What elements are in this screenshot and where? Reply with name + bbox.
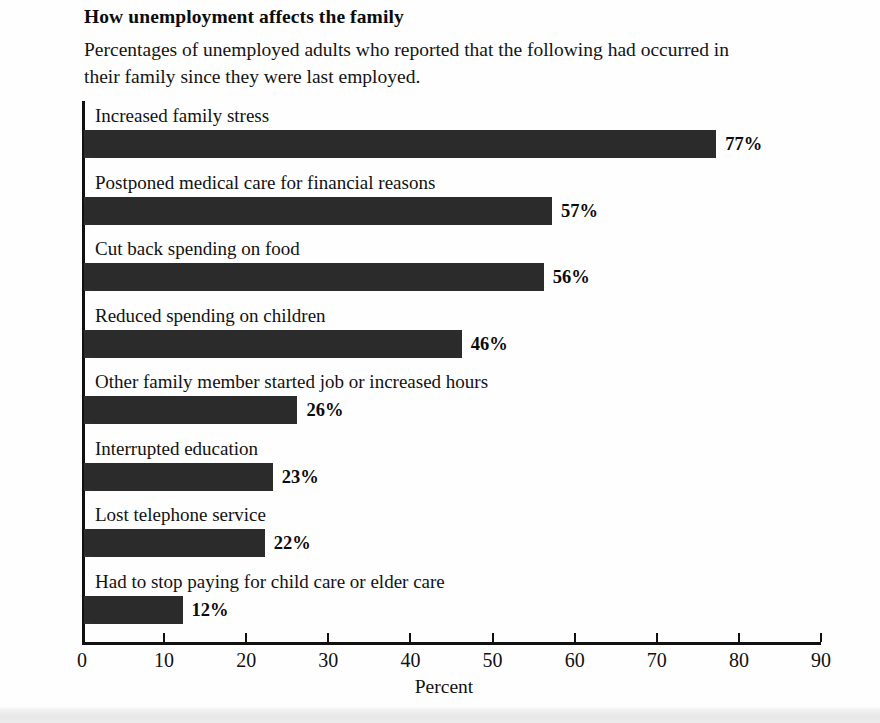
bar-group: Lost telephone service22% <box>84 505 880 557</box>
bar-rect <box>84 529 265 557</box>
bar-rect <box>84 596 183 624</box>
bar-rect <box>84 263 544 291</box>
x-axis-tick-label: 20 <box>236 650 256 670</box>
bar-rect <box>84 463 273 491</box>
x-axis-line <box>82 642 821 645</box>
chart-page: How unemployment affects the family Perc… <box>0 0 880 723</box>
x-axis-tick-label: 90 <box>811 650 831 670</box>
scanned-page-edge <box>0 706 880 723</box>
bar-group: Postponed medical care for financial rea… <box>84 173 880 225</box>
x-axis-tick-mark <box>820 633 822 642</box>
bar-value-label: 46% <box>471 330 508 358</box>
x-axis-label-text: Percent <box>415 676 473 697</box>
bar-category-label: Other family member started job or incre… <box>95 372 488 391</box>
bar-rect <box>84 130 716 158</box>
bar-value-label: 56% <box>553 263 590 291</box>
bar-category-label: Interrupted education <box>95 439 258 458</box>
bar-value-label: 57% <box>561 197 598 225</box>
x-axis-tick-mark <box>163 633 165 642</box>
x-axis-tick-mark <box>738 633 740 642</box>
x-axis-tick-label: 50 <box>483 650 503 670</box>
bar-chart-plot-area: Increased family stress77%Postponed medi… <box>0 0 880 723</box>
bar-category-label: Reduced spending on children <box>95 306 326 325</box>
x-axis-tick-mark <box>327 633 329 642</box>
x-axis-tick-mark <box>492 633 494 642</box>
x-axis-tick-label: 0 <box>77 650 87 670</box>
bar-category-label: Postponed medical care for financial rea… <box>95 173 435 192</box>
x-axis-tick-mark <box>245 633 247 642</box>
bar-category-label: Cut back spending on food <box>95 239 300 258</box>
bar-value-label: 23% <box>282 463 319 491</box>
bar-category-label: Lost telephone service <box>95 505 266 524</box>
bar-value-label: 22% <box>274 529 311 557</box>
bar-group: Other family member started job or incre… <box>84 372 880 424</box>
bar-category-label: Had to stop paying for child care or eld… <box>95 572 445 591</box>
bar-rect <box>84 396 297 424</box>
bar-rect <box>84 330 462 358</box>
bar-value-label: 26% <box>306 396 343 424</box>
bar-value-label: 77% <box>725 130 762 158</box>
x-axis-tick-label: 40 <box>400 650 420 670</box>
x-axis-tick-label: 60 <box>565 650 585 670</box>
bar-value-label: 12% <box>192 596 229 624</box>
bar-group: Cut back spending on food56% <box>84 239 880 291</box>
x-axis-tick-label: 80 <box>729 650 749 670</box>
bar-rect <box>84 197 552 225</box>
x-axis-tick-mark <box>409 633 411 642</box>
bar-group: Increased family stress77% <box>84 106 880 158</box>
bar-group: Had to stop paying for child care or eld… <box>84 572 880 624</box>
x-axis-tick-label: 10 <box>154 650 174 670</box>
bar-category-label: Increased family stress <box>95 106 269 125</box>
x-axis-tick-mark <box>574 633 576 642</box>
x-axis-tick-label: 70 <box>647 650 667 670</box>
x-axis-label: Percent <box>0 676 880 698</box>
x-axis-tick-label: 30 <box>318 650 338 670</box>
x-axis-tick-mark <box>656 633 658 642</box>
bar-group: Reduced spending on children46% <box>84 306 880 358</box>
bar-group: Interrupted education23% <box>84 439 880 491</box>
